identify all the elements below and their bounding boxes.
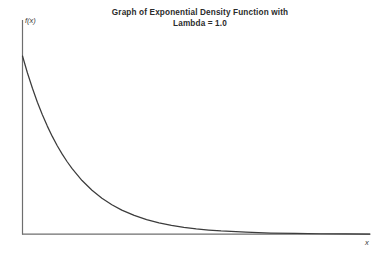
exponential-density-chart: Graph of Exponential Density Function wi… (0, 0, 391, 253)
y-axis-label: f(x) (25, 16, 36, 25)
plot-area (0, 0, 391, 253)
exponential-decay-curve (23, 56, 371, 234)
x-axis-label: x (365, 238, 369, 247)
